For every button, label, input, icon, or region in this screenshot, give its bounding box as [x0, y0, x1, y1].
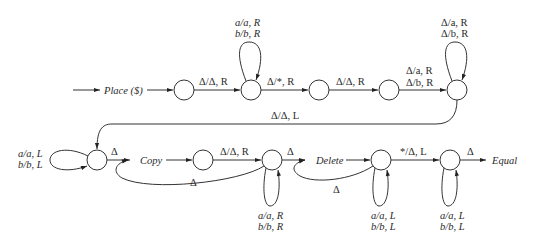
label-s6-loop-1: a/a, L — [18, 148, 43, 159]
macro-delete-label: Delete — [315, 155, 344, 166]
macro-equal-label: Equal — [491, 155, 517, 166]
macro-copy-label: Copy — [140, 155, 163, 166]
label-s10-equal: Δ — [467, 146, 474, 157]
label-s4-s5-2: Δ/b, R — [406, 77, 433, 88]
label-s9-s10: */Δ, L — [400, 146, 427, 157]
label-s6-loop-2: b/b, L — [18, 159, 43, 170]
turing-machine-diagram: Place ($) Δ/Δ, R a/a, R b/b, R Δ/*, R Δ/… — [0, 0, 540, 243]
macro-place-label: Place ($) — [103, 85, 143, 97]
label-s10-loop-2: b/b, L — [440, 221, 465, 232]
label-s2-s3: Δ/*, R — [267, 76, 294, 87]
label-s8-loop-2: b/b, R — [258, 221, 284, 232]
state-s10 — [440, 150, 460, 170]
label-s8-delete: Δ — [287, 146, 294, 157]
label-s5-loop-1: Δ/a, R — [441, 17, 468, 28]
state-s1 — [174, 80, 194, 100]
label-s10-loop-1: a/a, L — [440, 210, 465, 221]
label-s3-s4: Δ/Δ, R — [336, 76, 365, 87]
label-s7-s8: Δ/Δ, R — [220, 146, 249, 157]
label-s8-copy-back: Δ — [190, 177, 197, 188]
state-s9 — [371, 150, 391, 170]
label-s4-s5-1: Δ/a, R — [406, 65, 433, 76]
state-s5 — [447, 80, 467, 100]
label-s2-loop-2: b/b, R — [235, 28, 261, 39]
loop-s2 — [240, 42, 261, 81]
loop-s6 — [50, 150, 88, 170]
loop-s8 — [264, 168, 279, 206]
label-s9-loop-2: b/b, L — [371, 221, 396, 232]
loop-s10 — [442, 168, 457, 206]
label-s9-delete-back: Δ — [333, 184, 340, 195]
label-s9-loop-1: a/a, L — [371, 210, 396, 221]
loop-s5 — [446, 42, 467, 81]
label-s5-loop-2: Δ/b, R — [441, 28, 468, 39]
label-s5-s6: Δ/Δ, L — [271, 110, 299, 121]
label-s8-loop-1: a/a, R — [258, 210, 284, 221]
state-s8 — [262, 150, 282, 170]
state-s2 — [241, 80, 261, 100]
label-s1-s2: Δ/Δ, R — [199, 76, 228, 87]
label-s6-copy: Δ — [111, 146, 118, 157]
state-s3 — [309, 80, 329, 100]
label-s2-loop-1: a/a, R — [235, 17, 261, 28]
state-s7 — [193, 150, 213, 170]
state-s6 — [87, 150, 107, 170]
state-s4 — [379, 80, 399, 100]
loop-s9 — [373, 168, 388, 206]
edge-s5-s6 — [97, 100, 457, 149]
